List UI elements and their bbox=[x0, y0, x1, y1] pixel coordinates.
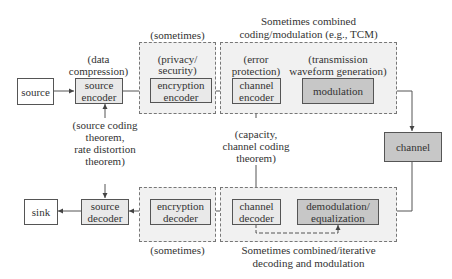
channel-decoder-block: channel decoder bbox=[232, 199, 281, 225]
channel-encoder-line1: channel bbox=[239, 79, 273, 91]
channel-decoder-line1: channel bbox=[239, 200, 273, 212]
encryption-decoder-line1: encryption bbox=[157, 200, 204, 212]
channel-encoder-annotation-line2: protection) bbox=[224, 65, 288, 77]
encryption-encoder-line1: encryption bbox=[157, 79, 204, 91]
source-label: source bbox=[21, 86, 50, 98]
source-theory-line1: (source coding bbox=[60, 119, 150, 131]
decryption-group-caption: (sometimes) bbox=[139, 244, 216, 256]
encryption-decoder-block: encryption decoder bbox=[150, 199, 211, 225]
source-encoder-annotation-line2: compression) bbox=[65, 65, 132, 77]
modulation-label: modulation bbox=[313, 85, 363, 97]
source-theory-line3: rate distortion bbox=[60, 143, 150, 155]
source-encoder-annotation-line1: (data bbox=[70, 53, 127, 65]
encryption-encoder-line2: encoder bbox=[164, 91, 199, 103]
modulation-block: modulation bbox=[302, 78, 374, 104]
combined-coding-caption-line1: Sometimes combined bbox=[220, 15, 397, 27]
modulation-annotation-line1: (transmission bbox=[286, 53, 390, 65]
source-encoder-block: source encoder bbox=[75, 78, 123, 104]
encryption-decoder-line2: decoder bbox=[163, 212, 198, 224]
channel-theory-line3: theorem) bbox=[216, 152, 296, 164]
channel-encoder-annotation-line1: (error bbox=[226, 53, 286, 65]
source-theory-line4: theorem) bbox=[60, 155, 150, 167]
demodulation-line2: equalization bbox=[311, 212, 365, 224]
channel-theory-line1: (capacity, bbox=[216, 128, 296, 140]
sink-block: sink bbox=[24, 199, 58, 225]
source-block: source bbox=[17, 78, 54, 105]
source-decoder-block: source decoder bbox=[81, 199, 129, 225]
encryption-group-caption: (sometimes) bbox=[139, 29, 216, 41]
sink-label: sink bbox=[32, 206, 50, 218]
combined-decoding-caption-line2: decoding and modulation bbox=[220, 257, 397, 269]
combined-decoding-caption-line1: Sometimes combined/iterative bbox=[220, 244, 397, 256]
source-encoder-line2: encoder bbox=[82, 91, 117, 103]
channel-theory-line2: channel coding bbox=[211, 140, 301, 152]
combined-coding-caption-line2: coding/modulation (e.g., TCM) bbox=[220, 28, 397, 40]
channel-block: channel bbox=[384, 132, 442, 162]
channel-decoder-line2: decoder bbox=[239, 212, 274, 224]
source-decoder-line1: source bbox=[91, 200, 120, 212]
encryption-encoder-block: encryption encoder bbox=[150, 78, 212, 103]
channel-encoder-line2: encoder bbox=[239, 91, 274, 103]
communication-system-diagram: (sometimes) Sometimes combined coding/mo… bbox=[0, 0, 452, 279]
source-encoder-line1: source bbox=[85, 79, 114, 91]
channel-encoder-block: channel encoder bbox=[232, 78, 281, 104]
modulation-annotation-line2: waveform generation) bbox=[286, 65, 390, 77]
encryption-annotation-line2: security) bbox=[139, 64, 216, 76]
source-decoder-line2: decoder bbox=[88, 212, 123, 224]
demodulation-line1: demodulation/ bbox=[306, 200, 370, 212]
source-theory-line2: theorem, bbox=[60, 131, 150, 143]
demodulation-equalization-block: demodulation/ equalization bbox=[297, 199, 379, 225]
channel-label: channel bbox=[396, 141, 430, 153]
